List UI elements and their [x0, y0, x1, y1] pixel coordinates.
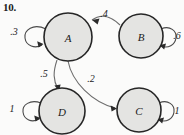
edge-label-self-loop-b: .6	[173, 30, 181, 41]
edge-b-to-a: .4	[92, 8, 120, 26]
node-b-label: B	[138, 31, 145, 43]
self-loop-a: .3	[10, 26, 46, 48]
self-loop-d: 1	[10, 102, 42, 122]
node-d-label: D	[57, 106, 66, 118]
edge-label-self-loop-c: 1	[175, 105, 180, 116]
node-a-label: A	[64, 32, 72, 44]
edge-label-self-loop-a: .3	[10, 26, 18, 37]
node-b[interactable]: B	[119, 14, 163, 58]
edge-label-a-to-d: .5	[40, 68, 48, 79]
edge-label-b-to-a: .4	[100, 8, 108, 19]
edge-a-to-d: .5	[40, 60, 60, 91]
node-d[interactable]: D	[39, 88, 85, 134]
edge-label-a-to-c: .2	[87, 73, 95, 84]
edge-a-to-d-path	[54, 60, 58, 89]
node-c-label: C	[135, 105, 143, 117]
node-a[interactable]: A	[44, 13, 92, 61]
state-diagram: .4 .5 .2 .3 .6 1	[0, 0, 184, 135]
edge-label-self-loop-d: 1	[10, 103, 15, 114]
node-c[interactable]: C	[117, 88, 161, 132]
figure-canvas: 10. .4 .5 .2 .3 .6	[0, 0, 184, 135]
edge-a-to-c-arrowhead	[111, 105, 117, 111]
